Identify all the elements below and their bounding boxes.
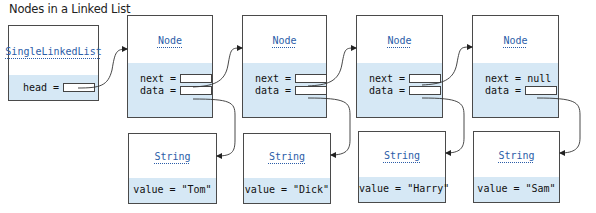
fields-section: next = data = xyxy=(357,63,442,117)
next-field: next = xyxy=(140,73,212,84)
node-object: Node next = data = xyxy=(356,15,443,118)
data-field: data = xyxy=(485,85,557,96)
node-object: Node next = null data = xyxy=(472,15,559,118)
head-label: head = xyxy=(23,82,59,93)
class-name: Node xyxy=(158,35,182,46)
fields-section: value = "Sam" xyxy=(474,177,559,202)
next-field: next = xyxy=(255,73,327,84)
string-object: String value = "Sam" xyxy=(473,131,560,203)
class-name: String xyxy=(384,150,420,161)
value-field: value = "Tom" xyxy=(129,184,216,195)
class-name: SingleLinkedList xyxy=(5,46,101,57)
class-name: Node xyxy=(272,35,296,46)
data-label: data = xyxy=(369,85,405,96)
fields-section: value = "Dick" xyxy=(244,178,330,203)
next-null-label: next = null xyxy=(485,73,551,84)
class-name: String xyxy=(269,151,305,162)
value-field: value = "Sam" xyxy=(474,183,559,194)
data-reference-box xyxy=(409,86,441,95)
node-object: Node next = data = xyxy=(242,15,327,118)
diagram-title: Nodes in a Linked List xyxy=(9,2,130,16)
value-field: value = "Harry" xyxy=(359,183,445,194)
next-label: next = xyxy=(255,73,291,84)
class-name: String xyxy=(154,151,190,162)
data-reference-box xyxy=(180,86,212,95)
class-header: Node xyxy=(128,16,212,65)
data-reference-box xyxy=(295,86,327,95)
fields-section: head = xyxy=(9,75,98,100)
data-reference-box xyxy=(525,86,557,95)
node-object: Node next = data = xyxy=(127,15,213,118)
fields-section: next = data = xyxy=(243,63,326,117)
class-header: String xyxy=(244,134,330,180)
class-name: String xyxy=(498,150,534,161)
fields-section: value = "Harry" xyxy=(359,177,445,202)
class-header: String xyxy=(359,132,445,179)
next-field: next = null xyxy=(485,73,551,84)
data-field: data = xyxy=(255,85,327,96)
class-header: Node xyxy=(357,16,442,65)
class-header: String xyxy=(474,132,559,179)
string-object: String value = "Dick" xyxy=(243,133,331,204)
string-object: String value = "Harry" xyxy=(358,131,446,203)
next-label: next = xyxy=(369,73,405,84)
fields-section: value = "Tom" xyxy=(129,178,216,203)
single-linked-list-object: SingleLinkedList head = xyxy=(8,25,99,101)
value-field: value = "Dick" xyxy=(244,184,330,195)
class-header: Node xyxy=(243,16,326,65)
string-object: String value = "Tom" xyxy=(128,133,217,204)
class-name: Node xyxy=(387,35,411,46)
data-field: data = xyxy=(369,85,441,96)
next-field: next = xyxy=(369,73,441,84)
fields-section: next = null data = xyxy=(473,63,558,117)
head-field: head = xyxy=(23,82,95,93)
data-label: data = xyxy=(485,85,521,96)
class-header: SingleLinkedList xyxy=(9,26,98,77)
data-label: data = xyxy=(140,85,176,96)
class-name: Node xyxy=(503,35,527,46)
data-field: data = xyxy=(140,85,212,96)
next-label: next = xyxy=(140,73,176,84)
class-header: Node xyxy=(473,16,558,65)
data-label: data = xyxy=(255,85,291,96)
next-reference-box xyxy=(295,74,327,83)
class-header: String xyxy=(129,134,216,180)
fields-section: next = data = xyxy=(128,63,212,117)
head-reference-box xyxy=(63,83,95,92)
next-reference-box xyxy=(409,74,441,83)
next-reference-box xyxy=(180,74,212,83)
